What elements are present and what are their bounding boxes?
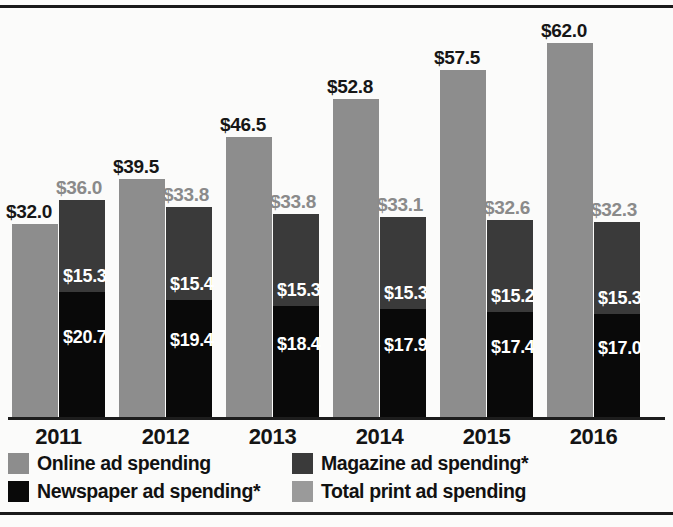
bar-segment-magazine-2011: $15.3 <box>59 200 105 292</box>
bar-print-stack-2014: $15.3$17.9 <box>380 217 426 417</box>
value-label-online-2013: $46.5 <box>220 114 266 136</box>
bar-segment-newspaper-2011: $20.7 <box>59 292 105 417</box>
value-label-newspaper-2014: $17.9 <box>384 335 428 356</box>
value-label-magazine-2016: $15.3 <box>598 288 642 309</box>
bar-segment-magazine-2012: $15.4 <box>166 207 212 300</box>
value-label-newspaper-2013: $18.4 <box>277 334 321 355</box>
value-label-newspaper-2016: $17.0 <box>598 338 642 359</box>
x-tick-label-2015: 2015 <box>440 424 533 450</box>
bar-online-2011 <box>12 224 58 417</box>
bar-segment-newspaper-2015: $17.4 <box>487 312 533 417</box>
value-label-total-print-2014: $33.1 <box>377 194 423 216</box>
chart-figure: $32.0$15.3$20.7$36.0$39.5$15.4$19.4$33.8… <box>0 0 673 527</box>
bar-segment-newspaper-2016: $17.0 <box>594 314 640 417</box>
value-label-online-2011: $32.0 <box>6 201 52 223</box>
legend-label: Total print ad spending <box>321 480 526 503</box>
bar-online-2014 <box>333 99 379 417</box>
value-label-total-print-2016: $32.3 <box>591 199 637 221</box>
legend-item-magazine-ad-spending[interactable]: Magazine ad spending* <box>292 452 528 475</box>
bar-segment-magazine-2014: $15.3 <box>380 217 426 309</box>
legend-swatch-icon <box>292 453 313 474</box>
bar-online-2012 <box>119 179 165 417</box>
value-label-total-print-2015: $32.6 <box>484 197 530 219</box>
bar-segment-magazine-2016: $15.3 <box>594 222 640 314</box>
x-tick-label-2014: 2014 <box>333 424 426 450</box>
bar-print-stack-2012: $15.4$19.4 <box>166 207 212 417</box>
value-label-magazine-2015: $15.2 <box>491 286 535 307</box>
value-label-online-2012: $39.5 <box>113 156 159 178</box>
bar-online-2016 <box>547 43 593 417</box>
value-label-online-2016: $62.0 <box>541 20 587 42</box>
legend-item-total-print-ad-spending[interactable]: Total print ad spending <box>292 480 526 503</box>
value-label-total-print-2011: $36.0 <box>56 177 102 199</box>
value-label-total-print-2012: $33.8 <box>163 184 209 206</box>
bar-segment-newspaper-2014: $17.9 <box>380 309 426 417</box>
bar-print-stack-2015: $15.2$17.4 <box>487 220 533 417</box>
x-axis-line <box>8 417 665 420</box>
legend-label: Magazine ad spending* <box>321 452 528 475</box>
bar-print-stack-2011: $15.3$20.7 <box>59 200 105 417</box>
legend-swatch-icon <box>292 481 313 502</box>
legend-label: Online ad spending <box>37 452 211 475</box>
bar-print-stack-2013: $15.3$18.4 <box>273 214 319 417</box>
value-label-magazine-2013: $15.3 <box>277 280 321 301</box>
value-label-newspaper-2015: $17.4 <box>491 337 535 358</box>
bar-print-stack-2016: $15.3$17.0 <box>594 222 640 417</box>
x-tick-label-2011: 2011 <box>12 424 105 450</box>
bar-segment-newspaper-2013: $18.4 <box>273 306 319 417</box>
value-label-total-print-2013: $33.8 <box>270 191 316 213</box>
value-label-magazine-2011: $15.3 <box>63 266 107 287</box>
legend-label: Newspaper ad spending* <box>37 480 260 503</box>
x-tick-label-2012: 2012 <box>119 424 212 450</box>
bar-segment-magazine-2015: $15.2 <box>487 220 533 312</box>
value-label-newspaper-2012: $19.4 <box>170 330 214 351</box>
value-label-online-2015: $57.5 <box>434 47 480 69</box>
legend-swatch-icon <box>8 453 29 474</box>
value-label-online-2014: $52.8 <box>327 76 373 98</box>
legend-item-online-ad-spending[interactable]: Online ad spending <box>8 452 211 475</box>
bar-segment-magazine-2013: $15.3 <box>273 214 319 306</box>
bar-online-2013 <box>226 137 272 417</box>
value-label-magazine-2014: $15.3 <box>384 283 428 304</box>
chart-legend: Online ad spendingMagazine ad spending*N… <box>0 452 673 508</box>
legend-item-newspaper-ad-spending[interactable]: Newspaper ad spending* <box>8 480 260 503</box>
value-label-magazine-2012: $15.4 <box>170 274 214 295</box>
x-tick-label-2016: 2016 <box>547 424 640 450</box>
legend-swatch-icon <box>8 481 29 502</box>
bar-online-2015 <box>440 70 486 417</box>
value-label-newspaper-2011: $20.7 <box>63 327 107 348</box>
bar-segment-newspaper-2012: $19.4 <box>166 300 212 417</box>
x-tick-label-2013: 2013 <box>226 424 319 450</box>
top-divider-rule <box>0 5 673 8</box>
bottom-divider-rule <box>0 512 673 515</box>
